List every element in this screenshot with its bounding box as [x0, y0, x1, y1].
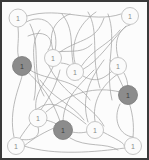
graph-edge	[70, 138, 118, 150]
node-label: 1	[73, 69, 77, 76]
edge-layer	[12, 12, 133, 152]
node-label: 1	[126, 92, 130, 99]
graph-node[interactable]: 1	[122, 8, 139, 25]
node-label: 1	[36, 115, 40, 122]
graph-edge	[12, 76, 22, 137]
node-label: 1	[51, 55, 55, 62]
figure-root: 111111111111	[0, 0, 149, 160]
graph-node[interactable]: 1	[8, 138, 25, 155]
node-label: 1	[93, 127, 97, 134]
graph-edge	[46, 90, 120, 112]
graph-edge	[103, 132, 124, 146]
graph-node[interactable]: 1	[13, 57, 32, 76]
graph-node[interactable]: 1	[29, 109, 47, 127]
node-label: 1	[16, 15, 20, 22]
graph-edge	[28, 33, 51, 50]
graph-node[interactable]: 1	[119, 86, 138, 105]
graph-edge	[74, 12, 96, 63]
graph-node[interactable]: 1	[9, 9, 27, 27]
node-label: 1	[20, 63, 24, 70]
graph-node[interactable]: 1	[54, 121, 73, 140]
node-label: 1	[116, 63, 120, 70]
graph-node[interactable]: 1	[67, 64, 84, 81]
graph-edge	[108, 14, 112, 100]
graph-edge	[60, 18, 104, 52]
graph-canvas: 111111111111	[0, 0, 149, 160]
graph-node[interactable]: 1	[125, 138, 142, 155]
node-label: 1	[131, 143, 135, 150]
node-label: 1	[128, 13, 132, 20]
graph-edge	[116, 25, 130, 57]
graph-node[interactable]: 1	[87, 122, 104, 139]
graph-edge	[88, 12, 100, 88]
graph-node[interactable]: 1	[45, 50, 62, 67]
graph-edge	[27, 13, 121, 17]
graph-edge	[40, 80, 84, 120]
node-label: 1	[61, 127, 65, 134]
graph-node[interactable]: 1	[110, 58, 127, 75]
graph-edge	[22, 128, 54, 148]
node-label: 1	[14, 143, 18, 150]
